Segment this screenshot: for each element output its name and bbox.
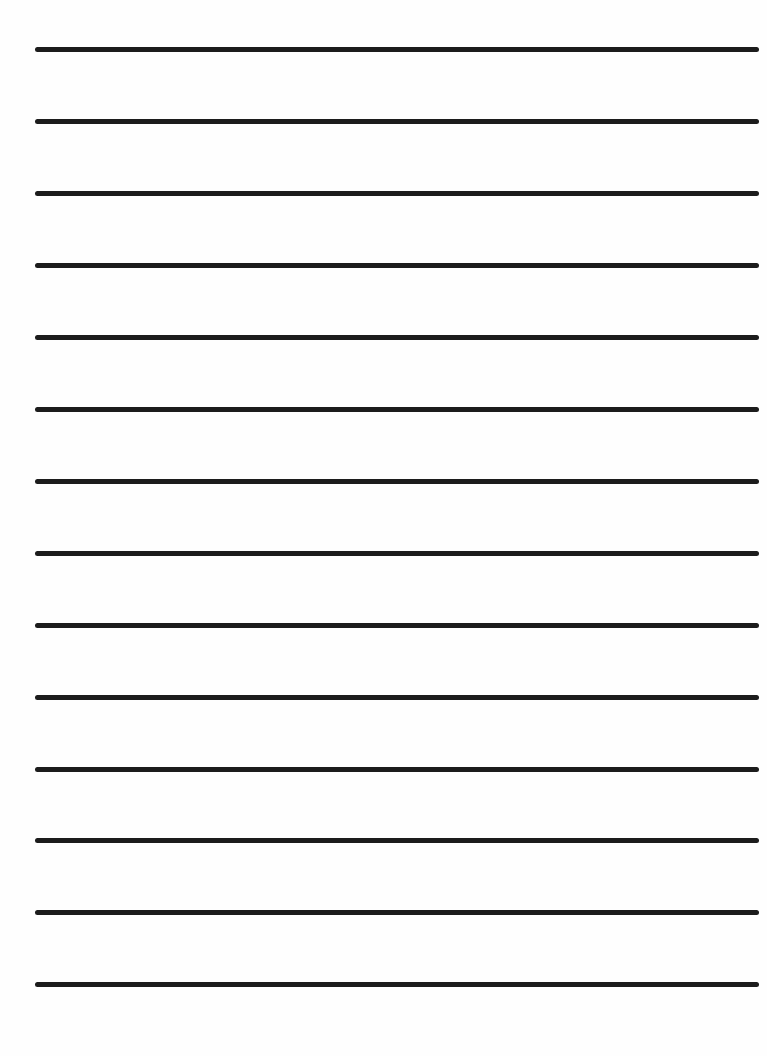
ruled-line xyxy=(35,407,759,412)
ruled-line xyxy=(35,695,759,700)
ruled-line xyxy=(35,910,759,915)
ruled-line xyxy=(35,551,759,556)
ruled-line xyxy=(35,335,759,340)
ruled-line xyxy=(35,767,759,772)
ruled-line xyxy=(35,263,759,268)
ruled-line xyxy=(35,838,759,843)
lined-paper-page xyxy=(0,0,767,1056)
ruled-line xyxy=(35,982,759,987)
ruled-line xyxy=(35,479,759,484)
ruled-line xyxy=(35,119,759,124)
ruled-line xyxy=(35,623,759,628)
ruled-line xyxy=(35,191,759,196)
ruled-line xyxy=(35,47,759,52)
